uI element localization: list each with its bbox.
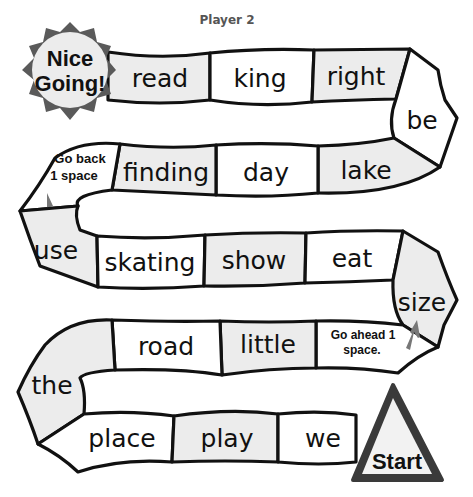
svg-text:lake: lake <box>340 156 391 185</box>
tile-right[interactable]: right <box>312 49 410 102</box>
player-title: Player 2 <box>199 13 254 27</box>
svg-text:read: read <box>132 64 188 93</box>
tile-show[interactable]: show <box>204 233 306 286</box>
svg-text:play: play <box>201 424 254 453</box>
svg-text:right: right <box>327 62 386 91</box>
tile-skating[interactable]: skating <box>97 235 205 288</box>
svg-text:finding: finding <box>123 158 209 187</box>
finish-nice-going: Nice Going! <box>22 22 116 120</box>
tile-king[interactable]: king <box>210 49 314 104</box>
tile-little[interactable]: little <box>220 321 316 375</box>
start-space[interactable]: Start <box>353 385 442 480</box>
svg-text:eat: eat <box>332 244 373 273</box>
svg-text:Start: Start <box>372 449 423 474</box>
svg-text:little: little <box>240 330 296 359</box>
svg-text:space.: space. <box>343 343 380 357</box>
tile-finding[interactable]: finding <box>112 144 216 195</box>
svg-text:the: the <box>31 371 72 400</box>
svg-text:skating: skating <box>105 248 196 277</box>
svg-text:Nice: Nice <box>47 46 93 71</box>
tile-eat[interactable]: eat <box>305 231 403 283</box>
svg-text:Going!: Going! <box>35 71 106 96</box>
svg-text:Go back: Go back <box>54 151 106 166</box>
svg-text:king: king <box>233 64 286 93</box>
tile-road[interactable]: road <box>112 320 222 375</box>
svg-text:use: use <box>34 236 78 265</box>
svg-text:day: day <box>243 158 289 187</box>
svg-text:1 space: 1 space <box>50 168 98 183</box>
tile-use[interactable]: use <box>20 206 98 287</box>
tile-read[interactable]: read <box>108 52 210 103</box>
tile-day[interactable]: day <box>216 144 318 196</box>
svg-text:we: we <box>305 424 341 453</box>
game-board: Player 2 read king right be lake day fin… <box>0 0 473 497</box>
tile-we[interactable]: we <box>278 412 356 464</box>
svg-text:road: road <box>138 332 194 361</box>
svg-text:show: show <box>222 246 287 275</box>
svg-text:Go ahead 1: Go ahead 1 <box>331 328 396 342</box>
svg-text:size: size <box>398 288 446 317</box>
svg-text:place: place <box>88 424 155 453</box>
tile-play[interactable]: play <box>172 411 278 462</box>
svg-text:be: be <box>406 106 437 135</box>
